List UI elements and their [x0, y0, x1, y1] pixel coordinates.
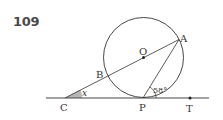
label-C: C: [60, 102, 68, 113]
label-B: B: [96, 69, 103, 80]
angle-x-label: x: [82, 88, 87, 98]
point-T-dot: [189, 97, 192, 100]
geometry-diagram: A O B C P T x 58°: [0, 0, 223, 120]
label-A: A: [179, 33, 188, 44]
label-P: P: [139, 102, 146, 113]
angle-58-label: 58°: [153, 86, 167, 95]
label-O: O: [139, 46, 147, 57]
label-T: T: [186, 103, 193, 114]
